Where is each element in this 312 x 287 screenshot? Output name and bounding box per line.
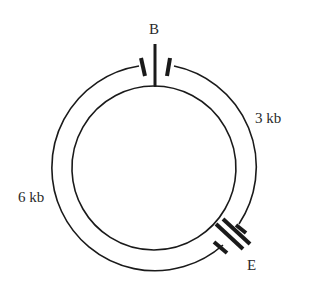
segment-3kb-label: 3 kb [255, 110, 281, 126]
plasmid-diagram: B E 3 kb 6 kb [0, 0, 312, 287]
site-e-marker [214, 219, 250, 253]
site-b-label: B [149, 21, 159, 37]
outer-strand [52, 66, 256, 271]
inner-strand [72, 86, 236, 250]
site-e-label: E [247, 257, 256, 273]
site-b-marker [141, 44, 170, 87]
segment-6kb-label: 6 kb [18, 189, 44, 205]
